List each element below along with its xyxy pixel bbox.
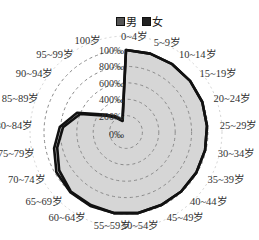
radar-chart: 0‰200‰400‰600‰800‰100‰0~4岁5~9岁10~14岁15~1…: [0, 0, 259, 240]
category-label: 5~9岁: [154, 36, 180, 48]
category-label: 0~4岁: [121, 30, 147, 42]
legend-label-male: 男: [126, 13, 137, 29]
radial-tick-label: 400‰: [99, 94, 124, 105]
category-label: 15~19岁: [199, 67, 236, 79]
category-label: 45~49岁: [167, 211, 204, 223]
category-label: 80~84岁: [0, 119, 32, 131]
category-label: 60~64岁: [49, 211, 86, 223]
category-label: 100岁: [75, 34, 101, 46]
radial-tick-label: 100‰: [99, 45, 124, 56]
radial-tick-label: 800‰: [99, 61, 124, 72]
legend-swatch-male: [116, 17, 125, 26]
category-label: 70~74岁: [8, 173, 45, 185]
category-label: 20~24岁: [214, 92, 251, 104]
radial-tick-label: 0‰: [109, 129, 124, 140]
legend: 男 女: [116, 13, 165, 29]
radial-tick-label: 600‰: [99, 78, 124, 89]
category-label: 95~99岁: [36, 48, 73, 60]
category-label: 40~44岁: [190, 195, 227, 207]
legend-swatch-female: [142, 17, 151, 26]
category-label: 90~94岁: [16, 67, 53, 79]
category-label: 65~69岁: [25, 195, 62, 207]
category-label: 85~89岁: [2, 92, 39, 104]
category-label: 30~34岁: [218, 147, 255, 159]
legend-label-female: 女: [152, 13, 163, 29]
category-label: 55~59岁: [94, 219, 131, 231]
category-label: 35~39岁: [207, 173, 244, 185]
category-label: 10~14岁: [179, 48, 216, 60]
category-label: 75~79岁: [0, 147, 34, 159]
category-label: 25~29岁: [220, 119, 257, 131]
radial-tick-label: 200‰: [99, 111, 124, 122]
